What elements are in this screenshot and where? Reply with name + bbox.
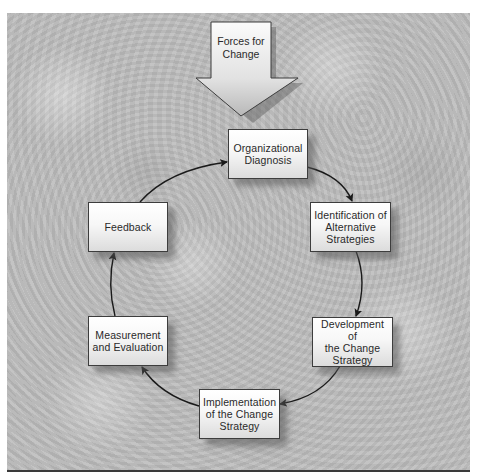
forces-for-change-label: Forces for Change xyxy=(210,35,272,61)
node-label-line2: of the Change xyxy=(203,408,276,420)
node-label-line2: and Evaluation xyxy=(93,341,164,353)
node-development-of-the-change-strategy: Development of the Change Strategy xyxy=(312,317,393,367)
connector-implementation-to-measurement xyxy=(142,367,199,406)
forces-label-line2: Change xyxy=(210,48,272,61)
connector-development-to-implementation xyxy=(280,366,340,404)
node-label-line1: Measurement xyxy=(93,329,164,341)
node-label-line2: Diagnosis xyxy=(233,154,302,166)
node-feedback: Feedback xyxy=(88,202,168,252)
node-organizational-diagnosis: Organizational Diagnosis xyxy=(228,129,308,179)
node-label-line1: Development of xyxy=(316,318,389,342)
forces-label-line1: Forces for xyxy=(210,35,272,48)
node-label-line1: Identification of xyxy=(314,209,386,221)
node-label-line3: Strategies xyxy=(314,233,386,245)
connector-measurement-to-feedback xyxy=(111,253,115,316)
node-label-line1: Organizational xyxy=(233,142,302,154)
node-label-line3: Strategy xyxy=(316,354,389,366)
node-label-line1: Feedback xyxy=(105,221,152,233)
node-label-line3: Strategy xyxy=(203,420,276,432)
connector-feedback-to-diagnosis xyxy=(140,162,227,202)
connector-identification-to-development xyxy=(356,251,362,316)
node-label-line2: Alternative xyxy=(314,221,386,233)
node-identification-of-alternative-strategies: Identification of Alternative Strategies xyxy=(310,202,391,252)
node-label-line2: the Change xyxy=(316,342,389,354)
node-label-line1: Implementation xyxy=(203,396,276,408)
node-measurement-and-evaluation: Measurement and Evaluation xyxy=(88,316,168,366)
node-implementation-of-the-change-strategy: Implementation of the Change Strategy xyxy=(199,389,280,439)
connector-diagnosis-to-identification xyxy=(307,167,352,201)
